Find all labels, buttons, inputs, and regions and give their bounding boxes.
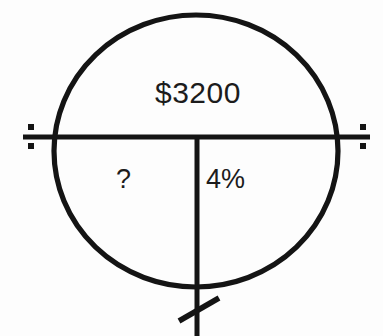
top-sector-label: $3200 bbox=[155, 78, 241, 108]
bottom-left-sector-label: ? bbox=[116, 166, 131, 193]
pie-diagram-figure bbox=[0, 0, 383, 336]
right-tick-square-upper bbox=[360, 124, 366, 130]
bottom-right-sector-label: 4% bbox=[206, 166, 245, 193]
diagram-canvas: $3200 ? 4% bbox=[0, 0, 383, 336]
left-tick-square-lower bbox=[28, 143, 34, 149]
left-tick-square-upper bbox=[28, 124, 34, 130]
right-tick-square-lower bbox=[360, 143, 366, 149]
